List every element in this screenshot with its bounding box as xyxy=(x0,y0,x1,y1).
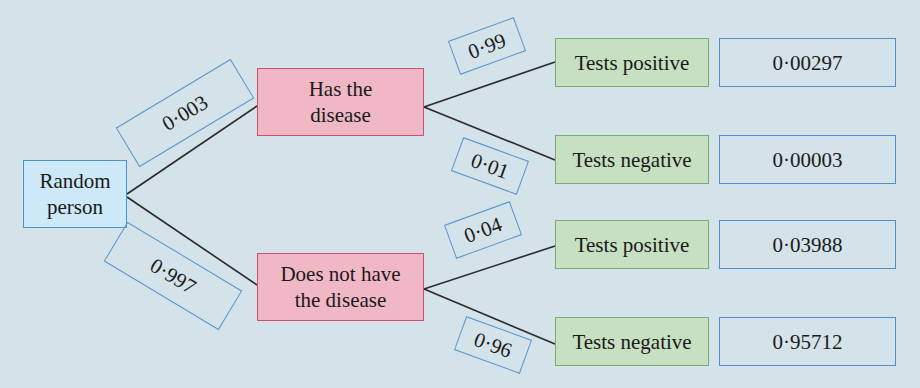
has-disease-label-line2: disease xyxy=(310,102,371,128)
test-label: Tests negative xyxy=(572,147,691,173)
test-label: Tests positive xyxy=(575,232,690,258)
result-no-disease-positive: 0·03988 xyxy=(719,220,896,269)
prob-value: 0·04 xyxy=(461,212,506,249)
no-disease-label-line2: the disease xyxy=(295,287,387,313)
node-no-disease-tests-positive: Tests positive xyxy=(555,220,709,269)
result-has-disease-negative: 0·00003 xyxy=(719,135,896,184)
root-node-random-person: Random person xyxy=(23,160,127,228)
prob-value: 0·99 xyxy=(465,28,510,65)
test-label: Tests negative xyxy=(572,329,691,355)
prob-value: 0·96 xyxy=(471,327,516,364)
node-no-disease: Does not have the disease xyxy=(257,253,424,321)
probability-tree-diagram: Random person Has the disease Does not h… xyxy=(0,0,920,388)
joint-probability: 0·95712 xyxy=(773,329,843,355)
prob-value: 0·01 xyxy=(468,148,513,185)
root-label-line2: person xyxy=(47,194,103,220)
no-disease-label-line1: Does not have xyxy=(280,261,400,287)
joint-probability: 0·00297 xyxy=(773,50,843,76)
node-has-disease-tests-negative: Tests negative xyxy=(555,135,709,184)
result-no-disease-negative: 0·95712 xyxy=(719,317,896,366)
has-disease-label-line1: Has the xyxy=(309,76,373,102)
result-has-disease-positive: 0·00297 xyxy=(719,38,896,87)
joint-probability: 0·00003 xyxy=(773,147,843,173)
test-label: Tests positive xyxy=(575,50,690,76)
root-label-line1: Random xyxy=(39,168,110,194)
branch-has-disease-to-positive xyxy=(424,62,555,107)
node-no-disease-tests-negative: Tests negative xyxy=(555,317,709,366)
node-has-disease-tests-positive: Tests positive xyxy=(555,38,709,87)
joint-probability: 0·03988 xyxy=(773,232,843,258)
node-has-disease: Has the disease xyxy=(257,68,424,136)
branch-no-disease-to-positive xyxy=(424,246,555,289)
